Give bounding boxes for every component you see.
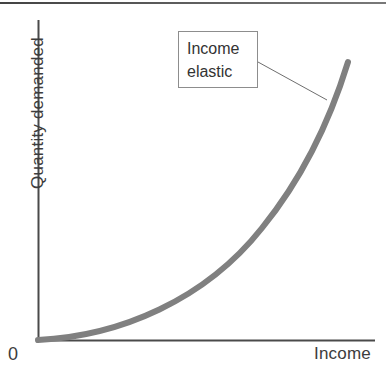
callout-text-line-1: Income (187, 37, 257, 60)
figure-root: Income elastic Quantity demanded Income … (0, 0, 386, 377)
callout-leader-line (258, 62, 327, 100)
income-elastic-callout: Income elastic (178, 31, 258, 88)
x-axis-title: Income (314, 344, 371, 364)
origin-label: 0 (8, 344, 18, 365)
y-axis-title: Quantity demanded (28, 13, 48, 213)
income-elastic-curve (38, 62, 348, 340)
callout-text-line-2: elastic (187, 60, 257, 83)
